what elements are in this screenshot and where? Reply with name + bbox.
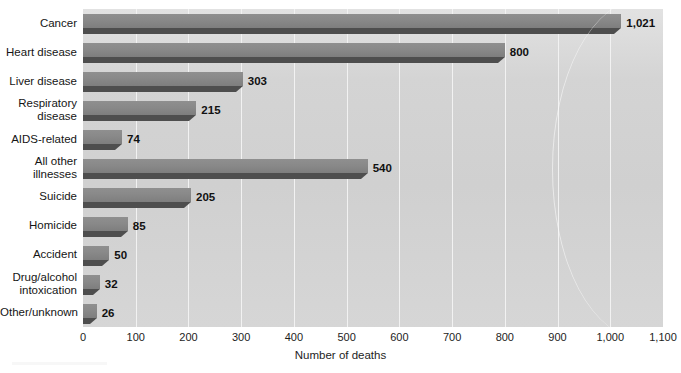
bar-front-face [83,260,102,266]
bar-value-label: 26 [102,307,115,319]
bar [83,14,621,34]
bar-value-label: 1,021 [626,17,655,29]
bar-end-bevel [614,28,621,34]
x-tick-label: 700 [443,331,461,343]
bar-value-label: 50 [114,249,127,261]
x-tick-label: 300 [232,331,250,343]
x-tick-label: 500 [337,331,355,343]
bar-end-bevel [115,144,122,150]
category-label: Cancer [0,17,77,30]
category-label: Respiratory disease [0,97,77,123]
bar-value-label: 205 [196,191,215,203]
bar-value-label: 74 [127,133,140,145]
bar-top-surface [83,43,505,57]
category-label: Drug/alcohol intoxication [0,271,77,297]
x-tick-label: 900 [548,331,566,343]
bar-end-bevel [498,57,505,63]
bar-top-surface [83,275,100,289]
bar-front-face [83,173,361,179]
bar [83,188,191,208]
bar-top-surface [83,217,128,231]
bar [83,159,368,179]
bar-top-surface [83,101,196,115]
bar-end-bevel [121,231,128,237]
x-tick-label: 600 [390,331,408,343]
bar-top-surface [83,304,97,318]
bar [83,217,128,237]
bar-value-label: 303 [248,75,267,87]
bar-front-face [83,28,614,34]
bar-chart-figure: CancerHeart diseaseLiver diseaseRespirat… [0,0,681,373]
bar [83,304,97,324]
bar-end-bevel [184,202,191,208]
bar-value-label: 800 [510,46,529,58]
bar-top-surface [83,72,243,86]
x-tick-label: 0 [80,331,86,343]
bar-value-label: 85 [133,220,146,232]
bar [83,130,122,150]
bar-value-label: 540 [373,162,392,174]
bar-top-surface [83,159,368,173]
category-label: Other/unknown [0,306,77,319]
gridline [610,9,611,327]
category-label: Suicide [0,190,77,203]
category-label: Liver disease [0,75,77,88]
footer-artifact [12,362,107,365]
category-label: AIDS-related [0,133,77,146]
bar-front-face [83,144,115,150]
bar-top-surface [83,188,191,202]
bar-end-bevel [93,289,100,295]
bar-front-face [83,318,90,324]
scan-artifact [552,9,663,327]
bar-top-surface [83,130,122,144]
category-label: Accident [0,248,77,261]
bar-front-face [83,115,189,121]
gridline [558,9,559,327]
x-tick-label: 400 [285,331,303,343]
bar-front-face [83,231,121,237]
x-tick-label: 200 [179,331,197,343]
x-tick-label: 1,100 [649,331,677,343]
bar-front-face [83,202,184,208]
bar-end-bevel [102,260,109,266]
x-tick-label: 800 [496,331,514,343]
bar-value-label: 215 [201,104,220,116]
x-axis-title: Number of deaths [0,349,681,361]
bar-front-face [83,86,236,92]
category-label: All other illnesses [0,155,77,181]
bar [83,43,505,63]
category-label: Heart disease [0,46,77,59]
gridline [505,9,506,327]
bar-front-face [83,57,498,63]
bar [83,246,109,266]
bar-top-surface [83,246,109,260]
x-tick-label: 100 [127,331,145,343]
category-label: Homicide [0,219,77,232]
bar-top-surface [83,14,621,28]
bar-end-bevel [361,173,368,179]
bar-end-bevel [189,115,196,121]
bar-value-label: 32 [105,278,118,290]
bar-end-bevel [90,318,97,324]
bar [83,275,100,295]
x-tick-label: 1,000 [597,331,625,343]
bar [83,72,243,92]
bar [83,101,196,121]
bar-end-bevel [236,86,243,92]
bar-front-face [83,289,93,295]
